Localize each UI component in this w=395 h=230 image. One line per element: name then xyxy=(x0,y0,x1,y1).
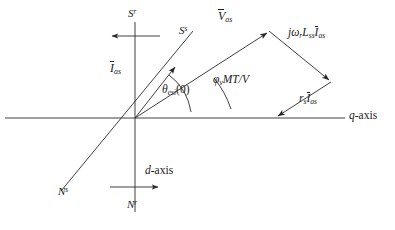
q-axis-label: q-axis xyxy=(349,110,377,122)
pole-label-n-rotor: Nr xyxy=(127,199,137,210)
i-as-label: Ias xyxy=(110,62,121,76)
rs-ias-label: rsIas xyxy=(299,93,317,105)
jwr-lss-ias-label: jωrLssIas xyxy=(288,27,325,39)
phi-v-label: φvMT/V xyxy=(213,74,249,86)
phasor-diagram-canvas: Sr Ss Ns Nr Vas Ias jωrLssIas rsIas θesi… xyxy=(0,0,395,230)
v-as-label: Vas xyxy=(218,10,232,24)
theta-esi-label: θesi(0) xyxy=(162,84,190,96)
pole-label-s-rotor: Sr xyxy=(128,8,136,19)
pole-label-s-stator: Ss xyxy=(179,25,187,36)
d-axis-label: d-axis xyxy=(145,165,173,177)
pole-label-n-stator: Ns xyxy=(58,186,68,197)
stator-axis-line xyxy=(61,31,193,191)
